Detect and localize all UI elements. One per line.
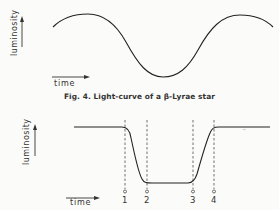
contact-label-1: 1	[122, 195, 127, 205]
arrowhead-icon	[84, 75, 90, 79]
eclipse-light-curve	[74, 127, 270, 183]
contact-label-2: 2	[144, 195, 149, 205]
arrowhead-icon	[20, 16, 24, 22]
fig4-xlabel: time	[54, 79, 75, 88]
contact-lines	[125, 120, 214, 189]
contact-label-4: 4	[211, 195, 216, 205]
beta-lyrae-light-curve	[53, 14, 273, 77]
fig5-ylabel: luminosity	[22, 118, 31, 165]
fig4-ylabel: luminosity	[10, 9, 19, 56]
diagram-canvas: ~	[0, 0, 279, 210]
contact-label-3: 3	[190, 195, 195, 205]
fig4-caption: Fig. 4. Light-curve of a β-Lyrae star	[0, 92, 279, 101]
stray-mark: ~	[242, 126, 246, 132]
contact-marker-circles	[124, 190, 216, 193]
arrowhead-icon	[33, 124, 37, 130]
fig5-xlabel: time	[70, 198, 91, 207]
arrowhead-icon	[94, 196, 100, 200]
